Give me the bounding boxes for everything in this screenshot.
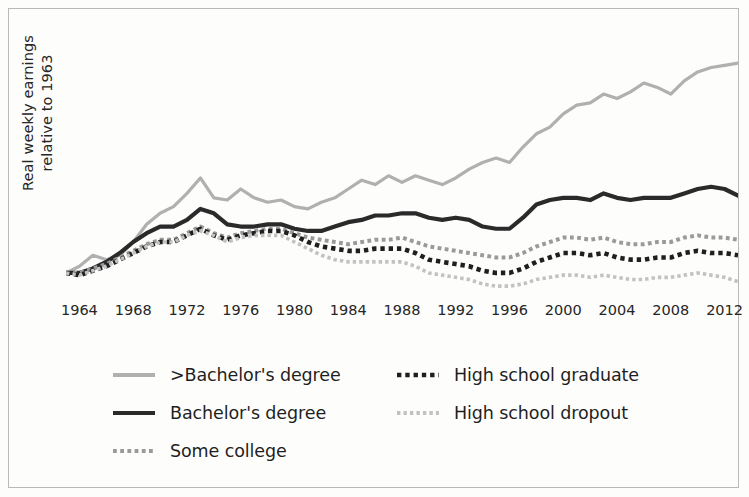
x-axis-tick-label: 1992	[437, 302, 474, 318]
legend-label-some-college: Some college	[170, 441, 287, 461]
x-axis-tick-label: 1976	[222, 302, 259, 318]
x-axis-tick-label: 1980	[276, 302, 313, 318]
legend-swatch-some-college	[112, 444, 156, 458]
legend-label-bachelors-plus: >Bachelor's degree	[170, 365, 341, 385]
y-axis-label-line-2: relative to 1963	[38, 55, 57, 172]
legend-label-hs-dropout: High school dropout	[454, 403, 628, 423]
legend-item-bachelors[interactable]: Bachelor's degree	[112, 400, 326, 426]
series-line	[66, 229, 738, 275]
legend-item-some-college[interactable]: Some college	[112, 438, 287, 464]
legend-swatch-bachelors	[112, 406, 156, 420]
x-axis-tick-label: 2012	[706, 302, 743, 318]
x-axis-tick-label: 2004	[599, 302, 636, 318]
series-line	[66, 227, 738, 273]
y-axis-label-line-1: Real weekly earnings	[19, 35, 38, 191]
x-axis-tick-label: 1972	[169, 302, 206, 318]
x-axis-tick-label: 1964	[61, 302, 98, 318]
legend-swatch-bachelors-plus	[112, 368, 156, 382]
legend-swatch-hs-graduate	[396, 368, 440, 382]
plot-area	[66, 30, 738, 295]
legend-swatch-hs-dropout	[396, 406, 440, 420]
x-axis-tick-labels: 1964196819721976198019841988199219962000…	[66, 302, 738, 324]
legend-label-bachelors: Bachelor's degree	[170, 403, 326, 423]
x-axis-tick-label: 1996	[491, 302, 528, 318]
chart-legend: >Bachelor's degree Bachelor's degree Som…	[112, 362, 712, 477]
y-axis-label: Real weekly earnings relative to 1963	[15, 13, 61, 213]
x-axis-tick-label: 2000	[545, 302, 582, 318]
x-axis-tick-label: 1984	[330, 302, 367, 318]
x-axis-tick-label: 2008	[652, 302, 689, 318]
legend-item-hs-graduate[interactable]: High school graduate	[396, 362, 639, 388]
x-axis-tick-label: 1988	[384, 302, 421, 318]
legend-item-hs-dropout[interactable]: High school dropout	[396, 400, 628, 426]
legend-item-bachelors-plus[interactable]: >Bachelor's degree	[112, 362, 341, 388]
legend-label-hs-graduate: High school graduate	[454, 365, 639, 385]
chart-figure: Real weekly earnings relative to 1963 19…	[0, 0, 749, 497]
series-canvas	[66, 30, 738, 295]
x-axis-tick-label: 1968	[115, 302, 152, 318]
